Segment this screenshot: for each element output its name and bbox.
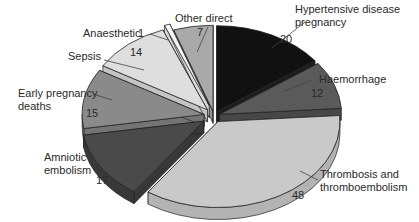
value-other-direct: 7: [197, 26, 203, 39]
label-sepsis: Sepsis: [68, 50, 101, 63]
value-thrombosis: 48: [292, 189, 304, 202]
value-haemorrhage: 12: [311, 87, 323, 100]
label-hypertensive: Hypertensive disease pregnancy: [295, 3, 400, 29]
value-amniotic: 17: [96, 174, 108, 187]
value-anaesthetic: 1: [138, 27, 144, 40]
label-thrombosis: Thrombosis and thromboembolism: [320, 168, 407, 194]
label-haemorrhage: Haemorrhage: [319, 73, 386, 86]
value-sepsis: 14: [130, 46, 142, 59]
label-other-direct: Other direct: [175, 12, 232, 25]
value-hypertensive: 20: [280, 33, 292, 46]
label-anaesthetic: Anaesthetic: [83, 27, 140, 40]
value-early: 15: [86, 107, 98, 120]
label-amniotic: Amniotic embolism: [44, 151, 91, 177]
